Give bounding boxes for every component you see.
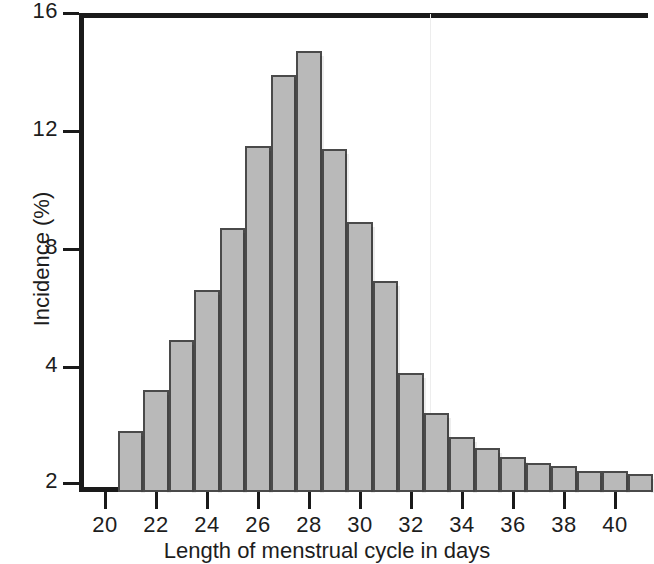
x-axis-tick <box>563 492 566 509</box>
histogram-figure: 2481216 2022242628303234363840 Incidence… <box>0 0 654 564</box>
histogram-bar <box>169 340 195 492</box>
histogram-bar <box>347 222 373 492</box>
x-axis-tick <box>155 492 158 509</box>
y-axis-tick <box>63 366 79 369</box>
x-axis-tick <box>308 492 311 509</box>
bars-layer <box>0 0 654 564</box>
histogram-bar <box>500 457 526 492</box>
histogram-bar <box>551 466 577 492</box>
histogram-bar <box>322 149 348 492</box>
y-axis-tick-label: 16 <box>18 0 58 24</box>
x-axis-tick <box>512 492 515 509</box>
y-axis-tick <box>63 482 79 485</box>
y-axis-tick <box>63 248 79 251</box>
histogram-bar <box>475 448 501 492</box>
y-axis-label: Incidence (%) <box>29 109 55 409</box>
histogram-bar <box>398 373 424 492</box>
x-axis-label-clip: Length of menstrual cycle in days <box>0 534 654 564</box>
x-axis-label: Length of menstrual cycle in days <box>0 538 654 564</box>
x-axis-tick <box>410 492 413 509</box>
histogram-bar <box>220 228 246 492</box>
histogram-bar <box>602 471 628 492</box>
histogram-bar <box>424 413 450 492</box>
x-axis-tick <box>461 492 464 509</box>
histogram-bar <box>449 437 475 492</box>
x-axis-tick <box>359 492 362 509</box>
histogram-bar <box>577 471 603 492</box>
histogram-bar <box>526 463 552 492</box>
x-axis-tick <box>206 492 209 509</box>
y-axis-tick-label: 2 <box>18 468 58 494</box>
histogram-bar <box>296 51 322 492</box>
histogram-bar <box>373 281 399 492</box>
x-axis-tick <box>257 492 260 509</box>
y-axis-tick <box>63 12 79 15</box>
histogram-bar <box>194 290 220 492</box>
histogram-bar <box>143 390 169 492</box>
y-axis-tick <box>63 130 79 133</box>
histogram-bar <box>271 75 297 492</box>
histogram-bar <box>245 146 271 492</box>
x-axis-tick <box>614 492 617 509</box>
histogram-bar <box>628 474 654 492</box>
histogram-bar <box>118 431 144 492</box>
x-axis-tick <box>104 492 107 509</box>
